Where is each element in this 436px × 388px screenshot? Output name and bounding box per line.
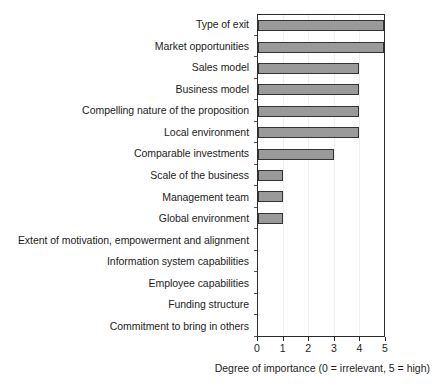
category-label: Global environment	[159, 213, 249, 224]
bar-row	[258, 229, 384, 250]
bar-row	[258, 36, 384, 57]
x-axis-tick-mark	[385, 337, 386, 341]
category-label-row: Global environment	[0, 208, 253, 230]
category-label: Comparable investments	[134, 148, 249, 159]
category-label-row: Information system capabilities	[0, 251, 253, 273]
bar-row	[258, 143, 384, 164]
bar-row	[258, 101, 384, 122]
x-axis-tick-label: 3	[331, 342, 337, 354]
category-label: Scale of the business	[150, 170, 249, 181]
category-label-row: Compelling nature of the proposition	[0, 100, 253, 122]
x-axis-tick-label: 4	[356, 342, 362, 354]
bar-row	[258, 250, 384, 271]
x-axis-tick-labels: 012345	[257, 342, 385, 356]
bar-row	[258, 208, 384, 229]
category-label-row: Local environment	[0, 122, 253, 144]
bar-row	[258, 315, 384, 336]
category-label-column: Type of exitMarket opportunitiesSales mo…	[0, 14, 253, 337]
category-label-row: Funding structure	[0, 294, 253, 316]
bar	[258, 106, 359, 117]
category-label-row: Employee capabilities	[0, 272, 253, 294]
bar-row	[258, 122, 384, 143]
bars-layer	[258, 15, 384, 336]
x-axis-tick-mark	[359, 337, 360, 341]
category-label-row: Market opportunities	[0, 36, 253, 58]
category-label-row: Type of exit	[0, 14, 253, 36]
category-label: Management team	[162, 192, 249, 203]
bar	[258, 63, 359, 74]
x-axis-tick-mark	[257, 337, 258, 341]
category-label: Business model	[176, 84, 249, 95]
bar-row	[258, 165, 384, 186]
bar	[258, 170, 283, 181]
bar-row	[258, 272, 384, 293]
category-label: Information system capabilities	[107, 256, 249, 267]
category-label-row: Commitment to bring in others	[0, 315, 253, 337]
x-axis-tick-mark	[334, 337, 335, 341]
x-axis-tick-mark	[283, 337, 284, 341]
x-axis-tick-label: 1	[280, 342, 286, 354]
bar	[258, 213, 283, 224]
bar	[258, 84, 359, 95]
category-label: Compelling nature of the proposition	[82, 105, 249, 116]
category-label: Sales model	[192, 62, 249, 73]
plot-area	[257, 14, 385, 337]
bar	[258, 127, 359, 138]
x-axis-tick-mark	[308, 337, 309, 341]
category-label-row: Extent of motivation, empowerment and al…	[0, 229, 253, 251]
bar-row	[258, 79, 384, 100]
category-label-row: Sales model	[0, 57, 253, 79]
x-axis-tick-label: 2	[305, 342, 311, 354]
category-label: Extent of motivation, empowerment and al…	[18, 235, 249, 246]
category-label: Commitment to bring in others	[110, 321, 249, 332]
horizontal-bar-chart: Type of exitMarket opportunitiesSales mo…	[0, 0, 436, 388]
category-label: Local environment	[164, 127, 249, 138]
category-label: Employee capabilities	[148, 278, 249, 289]
bar	[258, 191, 283, 202]
x-axis-tick-label: 5	[382, 342, 388, 354]
category-label: Market opportunities	[155, 41, 249, 52]
x-axis-caption: Degree of importance (0 = irrelevant, 5 …	[0, 362, 430, 375]
bar	[258, 20, 384, 31]
category-label-row: Business model	[0, 79, 253, 101]
bar-row	[258, 58, 384, 79]
category-label: Type of exit	[196, 19, 249, 30]
bar-row	[258, 15, 384, 36]
bar-row	[258, 186, 384, 207]
category-label: Funding structure	[168, 299, 249, 310]
x-axis-tick-label: 0	[254, 342, 260, 354]
category-label-row: Management team	[0, 186, 253, 208]
bar-row	[258, 293, 384, 314]
bar	[258, 42, 384, 53]
category-label-row: Scale of the business	[0, 165, 253, 187]
bar	[258, 149, 334, 160]
category-label-row: Comparable investments	[0, 143, 253, 165]
